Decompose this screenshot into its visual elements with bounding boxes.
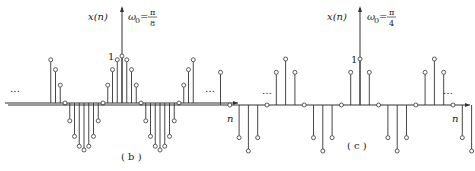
stem-marker — [293, 70, 297, 74]
omega-denominator: 4 — [389, 19, 394, 28]
stem-marker — [106, 83, 110, 87]
stem-marker — [414, 103, 418, 107]
stem-marker — [432, 57, 436, 61]
stem-marker — [63, 101, 67, 105]
stem-marker — [386, 136, 390, 140]
omega-numerator: π — [389, 8, 394, 17]
stem-marker — [284, 57, 288, 61]
stem-marker — [460, 136, 464, 140]
stem-marker — [49, 58, 53, 62]
stem-marker — [172, 119, 176, 123]
omega-denominator: 8 — [150, 19, 155, 28]
ellipsis-left: … — [262, 85, 272, 96]
stem-marker — [191, 58, 195, 62]
omega-equals: = — [140, 11, 148, 22]
omega-numerator: π — [150, 8, 155, 17]
stem-marker — [158, 148, 162, 152]
stem-marker — [182, 83, 186, 87]
ellipsis-right: … — [443, 85, 453, 96]
stem-marker — [423, 70, 427, 74]
stem-marker — [442, 70, 446, 74]
stem-marker — [349, 70, 353, 74]
stem-marker — [73, 134, 77, 138]
stem-marker — [177, 101, 181, 105]
stem-marker — [246, 149, 250, 153]
stem-marker — [111, 68, 115, 72]
stem-marker — [302, 103, 306, 107]
y-axis-arrow-icon — [120, 6, 124, 12]
panel-label: ( c ) — [347, 140, 367, 151]
stem-marker — [339, 103, 343, 107]
stem-marker — [58, 83, 62, 87]
x-axis-arrow-icon — [233, 101, 238, 105]
stem-marker — [256, 136, 260, 140]
stem-marker — [54, 68, 58, 72]
stem-marker — [330, 136, 334, 140]
y-axis-label: x(n) — [327, 11, 347, 22]
stem-marker — [367, 70, 371, 74]
stem-marker — [321, 149, 325, 153]
ellipsis-right: … — [205, 83, 215, 94]
stem-marker — [134, 83, 138, 87]
peak-label: 1 — [108, 51, 114, 62]
x-axis-label: n — [227, 113, 233, 124]
stem-marker — [358, 57, 362, 61]
stem-marker — [265, 103, 269, 107]
ellipsis-left: … — [10, 83, 20, 94]
stem-marker — [68, 119, 72, 123]
panel-label: ( b ) — [121, 151, 142, 162]
peak-label: 1 — [351, 54, 357, 65]
stem-marker — [237, 136, 241, 140]
stem-marker — [92, 134, 96, 138]
stem-marker — [96, 119, 100, 123]
stem-marker — [228, 103, 232, 107]
stem-marker — [405, 136, 409, 140]
stem-marker — [149, 134, 153, 138]
stem-marker — [101, 101, 105, 105]
stem-marker — [377, 103, 381, 107]
x-axis-label: n — [452, 113, 458, 124]
stem-marker — [115, 58, 119, 62]
stem-marker — [395, 149, 399, 153]
y-axis-arrow-icon — [358, 6, 362, 12]
stem-marker — [153, 144, 157, 148]
stem-marker — [87, 144, 91, 148]
stem-marker — [451, 103, 455, 107]
stem-marker — [470, 149, 474, 153]
omega-equals: = — [379, 11, 387, 22]
stem-marker — [168, 134, 172, 138]
stem-marker — [82, 148, 86, 152]
stem-marker — [139, 101, 143, 105]
stem-marker — [120, 54, 124, 58]
stem-marker — [144, 119, 148, 123]
stem-marker — [187, 68, 191, 72]
y-axis-label: x(n) — [88, 11, 108, 22]
x-axis-arrow-icon — [465, 103, 470, 107]
stem-marker — [219, 70, 223, 74]
stem-marker — [125, 58, 129, 62]
stem-marker — [163, 144, 167, 148]
stem-marker — [274, 70, 278, 74]
stem-plots: x(n)ω0=π81……n( b )x(n)ω0=π41……n( c ) — [0, 0, 475, 171]
stem-marker — [130, 68, 134, 72]
stem-marker — [77, 144, 81, 148]
stem-marker — [312, 136, 316, 140]
